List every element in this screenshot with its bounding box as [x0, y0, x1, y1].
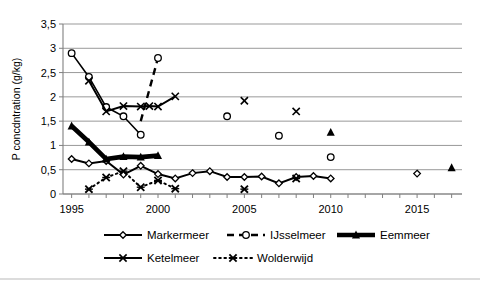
y-tick-label-0: 0 — [50, 188, 56, 200]
point-ijsselmeer-3 — [120, 113, 127, 120]
point-ijsselmeer-extra-1 — [276, 132, 283, 139]
x-tick-label-1: 2000 — [146, 203, 170, 215]
y-tick-label-4: 2 — [50, 91, 56, 103]
y-tick-label-2: 1 — [50, 139, 56, 151]
legend-label-markermeer: Markermeer — [147, 229, 209, 241]
x-tick-label-0: 1995 — [59, 203, 83, 215]
chart-figure: 00,511,522,533,5 19952000200520102015 P … — [0, 0, 480, 283]
point-ijsselmeer-0 — [68, 50, 75, 57]
y-tick-label-1: 0,5 — [41, 164, 56, 176]
y-tick-label-6: 3 — [50, 42, 56, 54]
point-ijsselmeer-extra-0 — [224, 113, 231, 120]
x-tick-label-3: 2010 — [318, 203, 342, 215]
x-tick-label-2: 2005 — [232, 203, 256, 215]
y-axis-title-text: P concdntration (g/kg) — [10, 58, 22, 161]
point-ijsselmeer-4 — [137, 131, 144, 138]
p-concentration-line-chart: 00,511,522,533,5 19952000200520102015 P … — [0, 0, 480, 283]
y-axis-title: P concdntration (g/kg) — [10, 58, 22, 161]
legend-label-ijsselmeer: IJsselmeer — [270, 229, 326, 241]
legend-label-eemmeer: Eemmeer — [380, 229, 430, 241]
y-tick-label-3: 1,5 — [41, 115, 56, 127]
y-tick-label-7: 3,5 — [41, 18, 56, 30]
point-ijsselmeer-extra-2 — [327, 154, 334, 161]
legend-marker-ijsselmeer — [243, 232, 250, 239]
point-ijsselmeer-5 — [155, 55, 162, 62]
legend-label-ketelmeer: Ketelmeer — [147, 252, 200, 264]
x-tick-label-4: 2015 — [405, 203, 429, 215]
y-tick-label-5: 2,5 — [41, 67, 56, 79]
legend-label-wolderwijd: Wolderwijd — [257, 252, 313, 264]
